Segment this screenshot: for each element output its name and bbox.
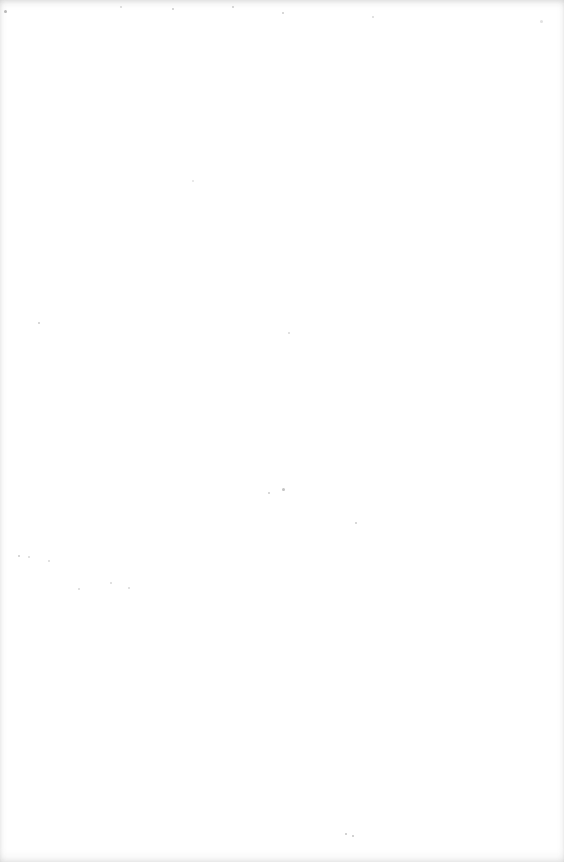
scan-speck xyxy=(78,588,80,590)
scan-speck xyxy=(288,332,290,334)
scan-speck xyxy=(4,10,7,13)
scan-speck xyxy=(345,833,347,835)
scan-speck xyxy=(28,556,30,558)
scan-speck xyxy=(192,180,194,182)
scan-speck xyxy=(352,835,354,837)
scan-speck xyxy=(372,16,374,18)
scan-speck xyxy=(172,8,174,10)
scan-speck xyxy=(128,587,130,589)
scan-speck xyxy=(18,555,20,557)
scan-speck xyxy=(355,522,357,524)
scan-speck xyxy=(282,488,285,491)
scan-speck xyxy=(120,6,122,8)
scan-speck xyxy=(232,6,234,8)
scan-speck xyxy=(268,492,270,494)
scan-speck xyxy=(110,582,112,584)
scan-speck xyxy=(540,20,543,23)
scan-speck xyxy=(38,322,40,324)
scan-speck xyxy=(48,560,50,562)
scan-speck xyxy=(282,12,284,14)
blank-page xyxy=(0,0,564,862)
